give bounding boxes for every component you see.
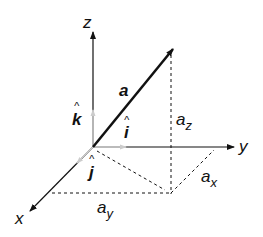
- x-axis-label: x: [14, 209, 24, 228]
- diagonal-projection-line: [97, 151, 165, 190]
- vector-diagram: z y x a ^ k ^ i ^ j az ax ay: [0, 0, 263, 237]
- ay-label: ay: [97, 198, 114, 221]
- vector-a: [93, 49, 173, 147]
- j-hat-label: j: [87, 163, 95, 182]
- k-hat-label: k: [72, 110, 83, 129]
- z-axis-label: z: [82, 13, 92, 32]
- az-label: az: [176, 110, 192, 133]
- vector-a-label: a: [119, 81, 128, 100]
- y-axis-label: y: [238, 137, 249, 156]
- ax-label: ax: [201, 167, 217, 190]
